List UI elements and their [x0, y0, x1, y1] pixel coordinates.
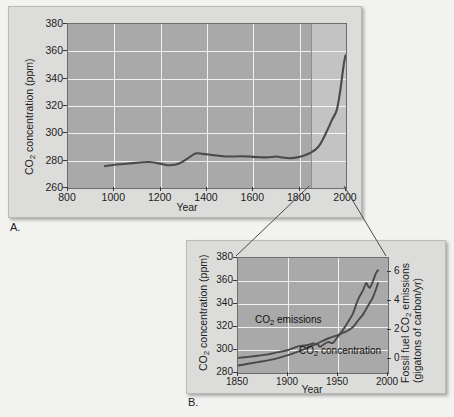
panel-b-inner: 280300320340360380 0246 1850190019502000…: [187, 241, 445, 393]
panel-b-right-axis-title-line2: (gigatons of carbon/yr): [411, 278, 423, 383]
panel-b-letter: B.: [188, 396, 198, 408]
panel-b: 280300320340360380 0246 1850190019502000…: [186, 240, 446, 394]
panel-a-plot-area: [67, 23, 347, 189]
panel-a-letter: A.: [10, 221, 20, 233]
panel-a-co2-concentration-curve: [68, 24, 346, 188]
figure-root: 260280300320340360380 800100012001400160…: [0, 0, 454, 417]
panel-a-x-axis-title: Year: [176, 201, 197, 213]
panel-a-inner: 260280300320340360380 800100012001400160…: [9, 7, 361, 217]
panel-b-left-axis-title: CO2 concentration (ppm): [197, 255, 211, 371]
panel-a-y-axis-title: CO2 concentration (ppm): [23, 59, 37, 175]
panel-a: 260280300320340360380 800100012001400160…: [8, 6, 362, 218]
panel-b-x-axis-title: Year: [301, 383, 322, 395]
